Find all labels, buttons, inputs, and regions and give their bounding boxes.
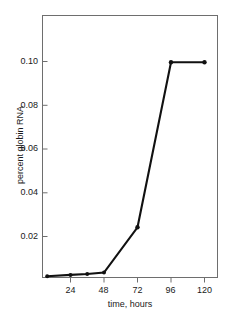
y-tick-label-0.10: 0.10 [4, 57, 38, 66]
x-tick-label-48: 48 [87, 286, 120, 295]
x-tick-label-24: 24 [54, 286, 87, 295]
data-point-96h [169, 60, 173, 64]
line-chart-plot [0, 0, 236, 324]
data-point-120h [202, 60, 206, 64]
y-axis-title: percent globin RNA [15, 80, 25, 210]
data-point-72h [135, 225, 139, 229]
chart-figure: 0.10 0.08 0.06 0.04 0.02 24 48 72 96 120… [0, 0, 236, 324]
x-tick-label-120: 120 [188, 286, 221, 295]
data-point-24h [69, 273, 73, 277]
y-tick-label-0.02: 0.02 [4, 232, 38, 241]
x-tick-label-72: 72 [121, 286, 154, 295]
data-point-36h [85, 272, 89, 276]
x-axis-ticks [71, 278, 205, 283]
x-tick-label-96: 96 [154, 286, 187, 295]
data-point-48h [102, 271, 106, 275]
data-point-0h [45, 274, 49, 278]
x-axis-title: time, hours [42, 299, 218, 309]
